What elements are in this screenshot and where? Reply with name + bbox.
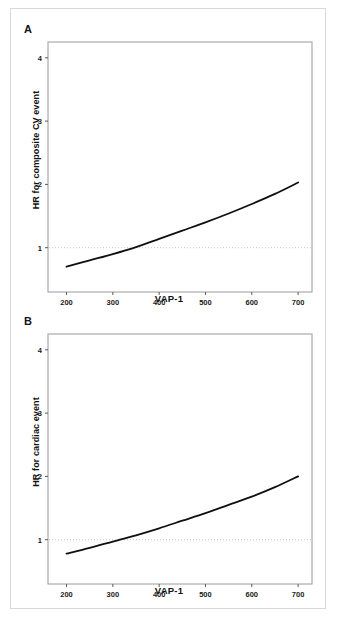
- panel-b-plot: HR for cardiac event 1234200300400500600…: [11, 309, 327, 604]
- panel-b: B HR for cardiac event 12342003004005006…: [11, 309, 327, 604]
- panel-a: A HR for composite CV event 123420030040…: [11, 17, 327, 312]
- panel-a-x-axis-title: VAP-1: [11, 293, 327, 304]
- y-tick-label: 1: [38, 244, 42, 253]
- y-tick-label: 3: [38, 117, 42, 126]
- plot-area-border: [48, 42, 312, 292]
- panel-a-plot: HR for composite CV event 12342003004005…: [11, 17, 327, 312]
- panel-a-chart-svg: 1234200300400500600700: [11, 17, 327, 312]
- plot-area-border: [48, 334, 312, 584]
- panel-b-chart-svg: 1234200300400500600700: [11, 309, 327, 604]
- panel-b-x-axis-title: VAP-1: [11, 585, 327, 596]
- figure-frame: A HR for composite CV event 123420030040…: [10, 8, 326, 609]
- y-tick-label: 4: [38, 346, 43, 355]
- y-tick-label: 4: [38, 54, 43, 63]
- y-tick-label: 2: [38, 180, 42, 189]
- y-tick-label: 3: [38, 409, 42, 418]
- y-tick-label: 2: [38, 472, 42, 481]
- y-tick-label: 1: [38, 536, 42, 545]
